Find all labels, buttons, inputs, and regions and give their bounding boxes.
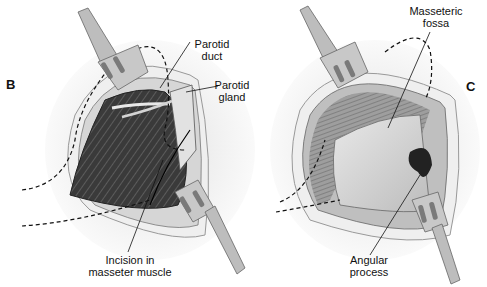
label-incision-masseter: Incision in masseter muscle bbox=[80, 254, 180, 278]
label-masseteric-fossa-line2: fossa bbox=[405, 17, 467, 29]
panel-label-b: B bbox=[6, 77, 15, 92]
label-angular-process: Angular process bbox=[341, 254, 397, 278]
label-masseteric-fossa: Masseteric fossa bbox=[405, 5, 467, 29]
label-parotid-duct-line1: Parotid bbox=[190, 38, 234, 50]
panel-label-c: C bbox=[466, 79, 475, 94]
label-parotid-duct: Parotid duct bbox=[190, 38, 234, 62]
label-incision-line1: Incision in bbox=[80, 254, 180, 266]
label-angular-process-line1: Angular bbox=[341, 254, 397, 266]
illustration-artwork bbox=[0, 0, 487, 287]
label-masseteric-fossa-line1: Masseteric bbox=[405, 5, 467, 17]
panel-c-artwork bbox=[270, 6, 480, 284]
label-incision-line2: masseter muscle bbox=[80, 266, 180, 278]
label-parotid-duct-line2: duct bbox=[190, 50, 234, 62]
surgical-illustration: B C Parotid duct Parotid gland Incision … bbox=[0, 0, 487, 287]
label-parotid-gland: Parotid gland bbox=[214, 79, 250, 103]
label-parotid-gland-line2: gland bbox=[214, 91, 250, 103]
label-parotid-gland-line1: Parotid bbox=[214, 79, 250, 91]
label-angular-process-line2: process bbox=[341, 266, 397, 278]
